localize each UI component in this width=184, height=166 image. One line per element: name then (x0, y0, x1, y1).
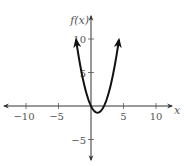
x-tick-label: 5 (120, 111, 126, 122)
x-axis-label: x (174, 104, 181, 117)
y-axis-label: f(x) (69, 14, 89, 27)
y-tick-label: −5 (71, 135, 86, 146)
x-tick-label: 10 (150, 111, 163, 122)
tick-labels: −10−5510105−5 (13, 34, 162, 146)
function-curve (76, 40, 119, 113)
y-tick-label: 10 (73, 34, 86, 45)
function-graph: −10−5510105−5 x f(x) (0, 0, 184, 166)
graph-svg: −10−5510105−5 x f(x) (0, 0, 184, 166)
x-tick-label: −5 (49, 111, 64, 122)
x-tick-label: −10 (13, 111, 34, 122)
axes (4, 16, 172, 160)
